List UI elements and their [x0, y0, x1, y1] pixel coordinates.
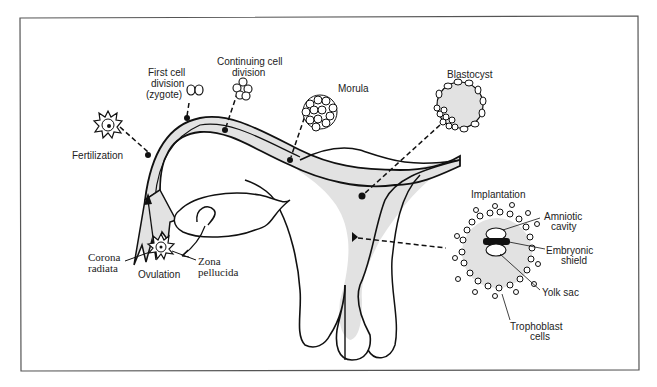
- label-first-cell-2: division: [151, 79, 184, 89]
- label-fertilization: Fertilization: [72, 151, 123, 161]
- label-amniotic-2: cavity: [551, 222, 577, 232]
- label-zona-2: pellucida: [198, 267, 238, 278]
- label-corona-2: radiata: [88, 263, 118, 274]
- label-continuing-1: Continuing cell: [217, 57, 283, 67]
- implantation-embryo: [453, 203, 541, 299]
- ovary: [174, 193, 290, 237]
- label-ovulation: Ovulation: [138, 270, 180, 280]
- label-trophoblast-2: cells: [530, 332, 550, 342]
- label-continuing-2: division: [232, 68, 265, 78]
- blastocyst: [434, 79, 486, 132]
- label-embryonic-2: shield: [561, 256, 587, 266]
- fertilized-ovum: [94, 111, 122, 138]
- label-first-cell-1: First cell: [148, 68, 185, 78]
- label-morula: Morula: [338, 84, 369, 94]
- label-implantation: Implantation: [471, 190, 525, 200]
- label-blastocyst: Blastocyst: [447, 70, 493, 80]
- zygote: [187, 85, 203, 95]
- label-first-cell-3: (zygote): [146, 90, 182, 100]
- cell-cluster: [233, 78, 252, 100]
- morula: [302, 95, 337, 131]
- label-yolk-sac: Yolk sac: [542, 288, 579, 298]
